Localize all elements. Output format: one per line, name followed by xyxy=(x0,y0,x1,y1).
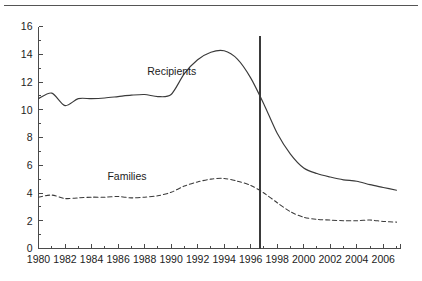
chart-figure: 0246810121416 19801982198419861988199019… xyxy=(0,0,422,281)
y-tick-label: 14 xyxy=(21,48,33,60)
series-label-recipients: Recipients xyxy=(147,65,196,77)
x-tick-label: 2002 xyxy=(319,253,343,265)
y-tick-label: 6 xyxy=(27,159,33,171)
data-series-group xyxy=(39,50,397,222)
x-tick-label: 1988 xyxy=(133,253,157,265)
x-tick-labels: 1980198219841986198819901992199419961998… xyxy=(27,253,395,265)
y-tick-label: 12 xyxy=(21,76,33,88)
y-axis xyxy=(39,27,44,249)
x-tick-label: 1990 xyxy=(159,253,183,265)
x-tick-label: 2006 xyxy=(372,253,396,265)
y-tick-label: 16 xyxy=(21,20,33,32)
y-tick-label: 4 xyxy=(27,187,33,199)
x-axis xyxy=(39,244,401,249)
x-tick-label: 1980 xyxy=(27,253,51,265)
y-tick-label: 8 xyxy=(27,131,33,143)
x-tick-label: 2004 xyxy=(345,253,369,265)
y-tick-labels: 0246810121416 xyxy=(21,20,33,254)
series-annotation-group: RecipientsFamilies xyxy=(107,65,196,182)
x-tick-label: 1986 xyxy=(106,253,130,265)
y-tick-label: 2 xyxy=(27,215,33,227)
line-chart-canvas: 0246810121416 19801982198419861988199019… xyxy=(0,0,422,281)
x-tick-label: 1984 xyxy=(80,253,104,265)
x-tick-label: 1994 xyxy=(212,253,236,265)
x-tick-label: 1998 xyxy=(266,253,290,265)
x-tick-label: 1982 xyxy=(53,253,77,265)
series-label-families: Families xyxy=(107,170,146,182)
y-tick-label: 10 xyxy=(21,104,33,116)
x-tick-label: 2000 xyxy=(292,253,316,265)
series-line-families xyxy=(39,178,397,222)
x-tick-label: 1996 xyxy=(239,253,263,265)
series-line-recipients xyxy=(39,50,397,190)
x-tick-label: 1992 xyxy=(186,253,210,265)
